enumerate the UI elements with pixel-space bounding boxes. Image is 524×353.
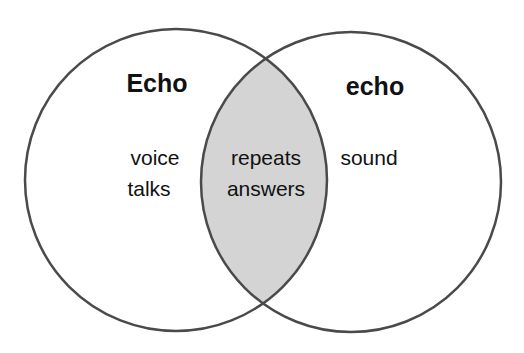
- right-item: sound: [340, 146, 397, 169]
- left-item: voice: [130, 146, 179, 169]
- overlap-item: answers: [227, 177, 305, 200]
- right-title: echo: [346, 72, 404, 100]
- left-item: talks: [127, 177, 170, 200]
- overlap-item: repeats: [231, 146, 301, 169]
- left-title: Echo: [126, 69, 187, 97]
- venn-diagram: Echo echo voice talks repeats answers so…: [0, 0, 524, 353]
